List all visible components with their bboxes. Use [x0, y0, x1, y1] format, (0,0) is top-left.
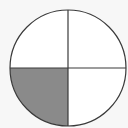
fraction-circle-diagram — [0, 0, 128, 128]
shaded-quarter-bottom-left — [10, 68, 68, 126]
